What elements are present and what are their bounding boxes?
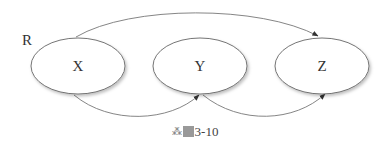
figure-caption: ⁂3-10 (0, 124, 390, 140)
figure-number: 3-10 (195, 124, 219, 139)
node-z-label: Z (317, 58, 326, 74)
node-x-label: X (73, 58, 84, 74)
edge-x-to-y (74, 95, 199, 116)
node-z: Z (275, 38, 369, 94)
node-x: X (31, 38, 125, 94)
node-y-label: Y (195, 58, 206, 74)
node-y: Y (153, 38, 247, 94)
side-label-r: R (22, 32, 32, 48)
svg-text:R: R (22, 32, 32, 48)
figure-prefix-box (183, 126, 194, 137)
figure-icon: ⁂ (172, 126, 182, 137)
edge-y-to-z (203, 94, 325, 116)
edge-x-to-z (76, 13, 318, 37)
